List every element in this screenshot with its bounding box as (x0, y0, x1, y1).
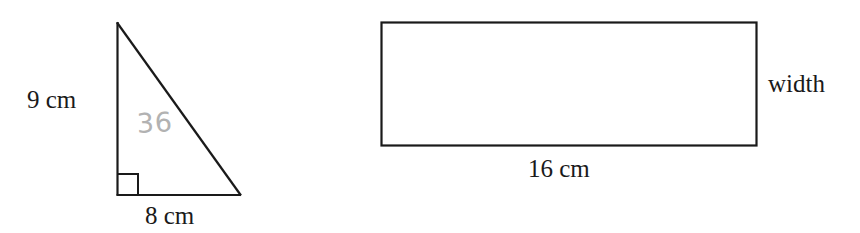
rectangle-outline (382, 23, 757, 146)
rectangle-width-label: width (768, 71, 825, 96)
rectangle-shape (382, 23, 757, 146)
right-angle-marker-icon (118, 174, 139, 195)
figure-canvas: 9 cm 8 cm 36 16 cm width (0, 0, 860, 233)
triangle-base-label: 8 cm (145, 203, 194, 228)
right-angle-square (118, 174, 139, 195)
rectangle-length-label: 16 cm (528, 156, 590, 181)
student-annotation-36: 36 (136, 108, 174, 137)
triangle-height-label: 9 cm (27, 87, 76, 112)
geometry-drawing (0, 0, 860, 233)
